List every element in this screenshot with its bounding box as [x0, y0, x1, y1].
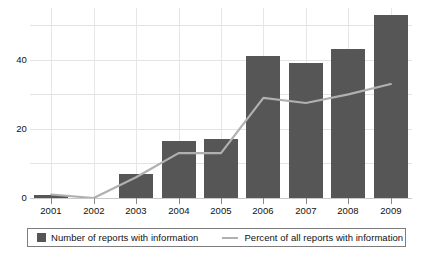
- legend-square-swatch-icon: [37, 233, 46, 242]
- x-tick-label-2009: 2009: [371, 205, 411, 216]
- x-tick-mark-2007: [306, 198, 307, 204]
- y-tick-label-40: 40: [3, 55, 27, 65]
- x-tick-mark-2008: [348, 198, 349, 204]
- x-tick-label-2001: 2001: [31, 205, 71, 216]
- x-tick-label-2006: 2006: [243, 205, 283, 216]
- x-tick-mark-2004: [179, 198, 180, 204]
- y-axis: 02040: [0, 8, 27, 198]
- x-tick-mark-2006: [263, 198, 264, 204]
- x-tick-label-2008: 2008: [328, 205, 368, 216]
- line-series-svg: [30, 8, 412, 198]
- x-tick-label-2005: 2005: [201, 205, 241, 216]
- x-tick-mark-2001: [51, 198, 52, 204]
- x-tick-label-2003: 2003: [116, 205, 156, 216]
- x-tick-mark-2005: [221, 198, 222, 204]
- y-tick-label-20: 20: [3, 124, 27, 134]
- x-tick-label-2002: 2002: [74, 205, 114, 216]
- chart-container: 02040 2001200220032004200520062007200820…: [0, 0, 423, 253]
- line-series-layer: [30, 8, 412, 198]
- y-tick-label-0: 0: [3, 193, 27, 203]
- legend-label-line: Percent of all reports with information: [244, 232, 403, 243]
- x-tick-mark-2009: [391, 198, 392, 204]
- x-axis: 200120022003200420052006200720082009: [30, 198, 412, 222]
- x-tick-label-2007: 2007: [286, 205, 326, 216]
- legend-item-percent-of-reports[interactable]: Percent of all reports with information: [222, 229, 403, 246]
- legend-label-bar: Number of reports with information: [51, 232, 198, 243]
- legend-line-swatch-icon: [222, 237, 238, 239]
- x-tick-mark-2002: [94, 198, 95, 204]
- chart-legend: Number of reports with information Perce…: [27, 228, 406, 247]
- x-tick-mark-2003: [136, 198, 137, 204]
- plot-area: [30, 8, 412, 198]
- legend-item-number-of-reports[interactable]: Number of reports with information: [37, 229, 198, 246]
- x-tick-label-2004: 2004: [159, 205, 199, 216]
